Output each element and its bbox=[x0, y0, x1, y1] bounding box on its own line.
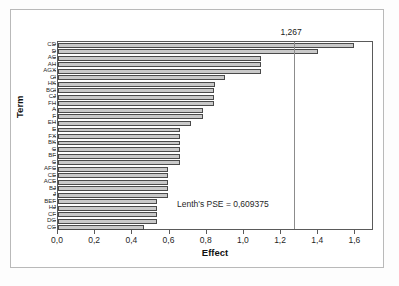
y-axis-tick-mark bbox=[53, 214, 56, 215]
y-axis-tick-mark bbox=[53, 51, 56, 52]
bar-row bbox=[58, 154, 374, 159]
bar-row bbox=[58, 180, 374, 185]
y-axis-tick-mark bbox=[53, 168, 56, 169]
x-axis-tick-label: 1,6 bbox=[348, 235, 360, 245]
x-axis-tick-label: 1,2 bbox=[274, 235, 286, 245]
bar bbox=[58, 69, 261, 74]
x-axis-tick-label: 1,0 bbox=[237, 235, 249, 245]
bar-row bbox=[58, 114, 374, 119]
x-axis-tick-label: 0,0 bbox=[51, 235, 63, 245]
x-axis-tick-mark bbox=[317, 230, 318, 234]
y-axis-tick-mark bbox=[53, 162, 56, 163]
bar-row bbox=[58, 82, 374, 87]
bar bbox=[58, 219, 157, 224]
y-axis-tick-mark bbox=[53, 129, 56, 130]
bar bbox=[58, 108, 203, 113]
bar bbox=[58, 49, 318, 54]
bar bbox=[58, 56, 261, 61]
bar-row bbox=[58, 173, 374, 178]
y-axis-tick-mark bbox=[53, 77, 56, 78]
bar bbox=[58, 101, 214, 106]
bar-row bbox=[58, 49, 374, 54]
bar-row bbox=[58, 69, 374, 74]
bar bbox=[58, 160, 180, 165]
x-axis-tick-mark bbox=[94, 230, 95, 234]
bar-row bbox=[58, 147, 374, 152]
x-axis-tick-label: 0,6 bbox=[163, 235, 175, 245]
bar-row bbox=[58, 134, 374, 139]
y-axis-tick-mark bbox=[53, 142, 56, 143]
y-axis-tick-mark bbox=[53, 220, 56, 221]
x-axis-tick-mark bbox=[280, 230, 281, 234]
bar bbox=[58, 173, 168, 178]
y-axis-tick-mark bbox=[53, 109, 56, 110]
x-axis-tick-mark bbox=[169, 230, 170, 234]
bar-row bbox=[58, 193, 374, 198]
x-axis-tick-mark bbox=[131, 230, 132, 234]
bar bbox=[58, 167, 168, 172]
bar bbox=[58, 88, 214, 93]
bar bbox=[58, 95, 214, 100]
bar-row bbox=[58, 43, 374, 48]
y-axis-tick-mark bbox=[53, 103, 56, 104]
y-axis-tick-mark bbox=[53, 90, 56, 91]
bar-row bbox=[58, 88, 374, 93]
bar bbox=[58, 193, 168, 198]
x-axis-tick-label: 0,8 bbox=[200, 235, 212, 245]
bar bbox=[58, 199, 157, 204]
y-axis-title: Term bbox=[14, 95, 25, 118]
x-axis-tick-label: 0,2 bbox=[88, 235, 100, 245]
bar-row bbox=[58, 121, 374, 126]
bar bbox=[58, 43, 354, 48]
y-axis-tick-mark bbox=[53, 70, 56, 71]
bar-row bbox=[58, 56, 374, 61]
y-axis-tick-mark bbox=[53, 149, 56, 150]
x-axis-tick-label: 0,4 bbox=[125, 235, 137, 245]
x-axis-tick-mark bbox=[206, 230, 207, 234]
bar-row bbox=[58, 141, 374, 146]
pareto-chart-figure: Term CDDACAHAGXCIHKBCICJFHAFEHEFXBKCBFCA… bbox=[0, 0, 399, 286]
bar bbox=[58, 141, 180, 146]
bar-row bbox=[58, 167, 374, 172]
bar-row bbox=[58, 101, 374, 106]
bar bbox=[58, 62, 261, 67]
y-axis-tick-mark bbox=[53, 122, 56, 123]
bar-row bbox=[58, 62, 374, 67]
bar bbox=[58, 128, 180, 133]
y-axis-tick-mark bbox=[53, 83, 56, 84]
bar bbox=[58, 114, 203, 119]
bar bbox=[58, 154, 180, 159]
bar-row bbox=[58, 212, 374, 217]
y-axis-tick-mark bbox=[53, 194, 56, 195]
y-axis-tick-mark bbox=[53, 64, 56, 65]
y-axis-tick-mark bbox=[53, 96, 56, 97]
y-axis-tick-mark bbox=[53, 188, 56, 189]
x-axis-tick-mark bbox=[243, 230, 244, 234]
bar-row bbox=[58, 108, 374, 113]
bar-row bbox=[58, 186, 374, 191]
y-axis-tick-mark bbox=[53, 44, 56, 45]
y-axis-tick-labels: CDDACAHAGXCIHKBCICJFHAFEHEFXBKCBFCAFCCEA… bbox=[34, 41, 56, 230]
y-axis-tick-mark bbox=[53, 175, 56, 176]
x-axis-tick-label: 1,4 bbox=[311, 235, 323, 245]
x-axis-tick-mark bbox=[57, 230, 58, 234]
y-axis-tick-mark bbox=[53, 57, 56, 58]
lenths-pse-annotation: Lenth's PSE = 0,609375 bbox=[177, 199, 269, 209]
y-axis-tick-mark bbox=[53, 136, 56, 137]
x-axis-tick-mark bbox=[354, 230, 355, 234]
y-axis-tick-mark bbox=[53, 116, 56, 117]
bar bbox=[58, 134, 180, 139]
bar-row bbox=[58, 95, 374, 100]
y-axis-tick-mark bbox=[53, 181, 56, 182]
bar-row bbox=[58, 75, 374, 80]
reference-line bbox=[294, 42, 295, 229]
bar bbox=[58, 180, 168, 185]
bar bbox=[58, 75, 225, 80]
x-axis-title: Effect bbox=[57, 247, 373, 258]
bar-row bbox=[58, 128, 374, 133]
bar bbox=[58, 121, 191, 126]
bar-row bbox=[58, 160, 374, 165]
y-axis-tick-mark bbox=[53, 201, 56, 202]
bar-row bbox=[58, 219, 374, 224]
reference-line-label: 1,267 bbox=[281, 27, 302, 37]
